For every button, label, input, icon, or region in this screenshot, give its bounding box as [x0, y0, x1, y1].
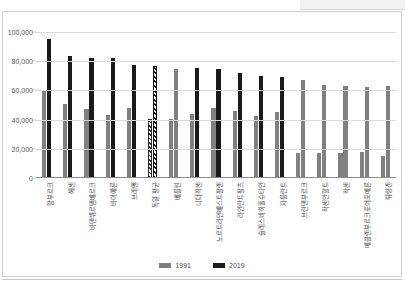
x-axis-label: 바이에른	[110, 182, 117, 206]
bar-group	[184, 32, 205, 178]
bar-group	[142, 32, 163, 178]
bar-1991	[275, 112, 279, 178]
legend-swatch	[213, 263, 225, 268]
x-axis-label: 노르트라인베스트팔렌	[216, 182, 223, 242]
chart-frame: 020,00040,00060,00080,000100,000 함부르크헤센바…	[2, 11, 402, 277]
bar-group	[375, 32, 396, 178]
bar-2019	[153, 66, 157, 178]
x-axis-label: 작센안할트	[322, 182, 329, 212]
x-axis-label: 독일 평균	[152, 182, 159, 208]
y-axis-tick-label: 20,000	[12, 145, 33, 152]
legend-item[interactable]: 2019	[213, 262, 245, 269]
bar-group	[332, 32, 353, 178]
x-axis-label: 슐레스비히홀슈타인	[258, 182, 265, 236]
y-axis-tick-mark	[33, 148, 36, 149]
y-axis-tick-mark	[33, 32, 36, 33]
bar-1991	[317, 153, 321, 178]
bar-1991	[190, 114, 194, 178]
bar-1991	[63, 104, 67, 178]
gridline	[36, 90, 396, 91]
x-axis-label-slot: 라인란트팔츠	[227, 182, 248, 254]
bar-groups	[36, 32, 396, 178]
bar-group	[227, 32, 248, 178]
bar-2019	[280, 77, 284, 178]
x-axis-label: 베를린	[174, 182, 181, 200]
plot-area: 020,00040,00060,00080,000100,000	[36, 32, 396, 178]
gridline	[36, 32, 396, 33]
legend-label: 2019	[229, 262, 245, 269]
bar-2019	[89, 58, 93, 178]
x-axis-label-slot: 슐레스비히홀슈타인	[248, 182, 269, 254]
bar-1991	[233, 111, 237, 178]
y-axis-tick-mark	[33, 61, 36, 62]
bar-1991	[296, 153, 300, 178]
y-axis-tick-label: 40,000	[12, 116, 33, 123]
gridline	[36, 149, 396, 150]
bar-2019	[68, 56, 72, 178]
bar-1991	[106, 115, 110, 179]
x-axis-label: 함부르크	[47, 182, 54, 206]
gridline	[36, 61, 396, 62]
x-axis-label-slot: 함부르크	[36, 182, 57, 254]
bar-1991	[254, 116, 258, 178]
x-axis-labels: 함부르크헤센바덴뷔르템베르크바이에른브레멘독일 평균베를린니더작센노르트라인베스…	[36, 182, 396, 254]
legend-label: 1991	[175, 262, 191, 269]
bar-group	[290, 32, 311, 178]
y-axis-tick-label: 60,000	[12, 87, 33, 94]
x-axis-label-slot: 헤센	[57, 182, 78, 254]
bar-2019	[132, 65, 136, 178]
bar-group	[248, 32, 269, 178]
x-axis-label: 튀링겐	[385, 182, 392, 200]
bar-1991	[338, 153, 342, 178]
y-axis-tick-label: 80,000	[12, 58, 33, 65]
bar-1991	[381, 156, 385, 178]
bar-group	[311, 32, 332, 178]
bar-group	[78, 32, 99, 178]
bar-2019	[111, 58, 115, 178]
x-axis-label-slot: 바덴뷔르템베르크	[78, 182, 99, 254]
x-axis-label-slot: 브란덴부르크	[290, 182, 311, 254]
bar-group	[269, 32, 290, 178]
x-axis-label-slot: 독일 평균	[142, 182, 163, 254]
y-axis-tick-label: 100,000	[8, 29, 33, 36]
chart-container: 020,00040,00060,00080,000100,000 함부르크헤센바…	[0, 0, 405, 281]
x-axis-label: 작센	[343, 182, 350, 194]
y-axis-tick-mark	[33, 119, 36, 120]
x-axis-label-slot: 튀링겐	[375, 182, 396, 254]
y-axis-tick-mark	[33, 90, 36, 91]
x-axis-label: 브레멘	[131, 182, 138, 200]
x-axis-label: 자를란트	[280, 182, 287, 206]
bar-group	[163, 32, 184, 178]
bar-group	[100, 32, 121, 178]
bar-2019	[259, 76, 263, 178]
bar-2019	[301, 80, 305, 178]
x-axis-label: 헤센	[68, 182, 75, 194]
chart-legend: 19912019	[3, 262, 401, 269]
x-axis-label-slot: 작센안할트	[311, 182, 332, 254]
bar-2019	[174, 69, 178, 178]
legend-item[interactable]: 1991	[159, 262, 191, 269]
bar-2019	[365, 87, 369, 178]
gridline	[36, 120, 396, 121]
x-axis-label-slot: 작센	[332, 182, 353, 254]
legend-swatch	[159, 263, 171, 268]
x-axis-label-slot: 바이에른	[100, 182, 121, 254]
bar-1991	[42, 91, 46, 178]
x-axis-label: 바덴뷔르템베르크	[89, 182, 96, 230]
x-axis-label: 라인란트팔츠	[237, 182, 244, 218]
x-axis-label-slot: 자를란트	[269, 182, 290, 254]
x-axis-label-slot: 니더작센	[184, 182, 205, 254]
bar-1991	[360, 152, 364, 178]
bar-group	[205, 32, 226, 178]
bar-group	[121, 32, 142, 178]
bar-group	[36, 32, 57, 178]
bar-2019	[386, 86, 390, 178]
bar-2019	[238, 73, 242, 178]
bar-2019	[216, 69, 220, 178]
x-axis-label-slot: 브레멘	[121, 182, 142, 254]
bar-group	[57, 32, 78, 178]
x-axis-label-slot: 메클렌부르크포어포메른	[354, 182, 375, 254]
x-axis-line	[36, 177, 396, 178]
bar-group	[354, 32, 375, 178]
bar-2019	[195, 68, 199, 178]
